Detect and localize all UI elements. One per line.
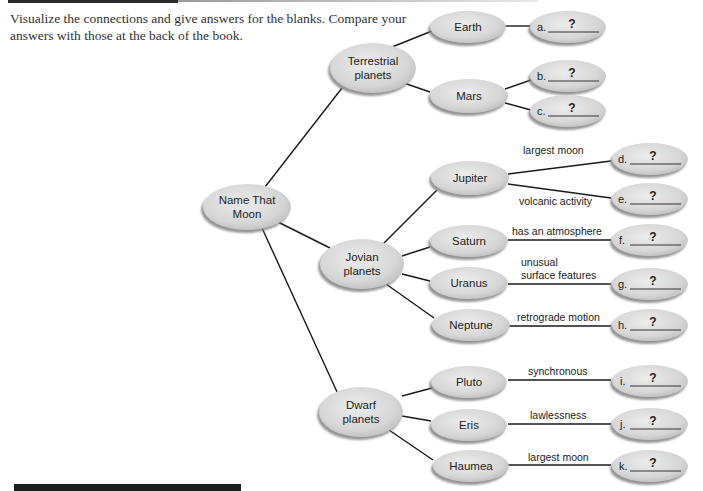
planet-saturn-label: Saturn — [452, 235, 486, 247]
hint-g-line1: unusual — [521, 256, 558, 268]
hint-k: largest moon — [528, 451, 589, 463]
category-node-dwarf — [319, 387, 403, 437]
blank-j-answer[interactable]: ? — [649, 414, 656, 428]
edge-mars-b — [505, 80, 531, 89]
blank-g-answer[interactable]: ? — [649, 274, 656, 288]
edge-mars-c — [505, 103, 531, 110]
category-dwarf-line2: planets — [342, 413, 379, 425]
edge-labels: largest moon volcanic activity has an at… — [512, 144, 602, 463]
hint-f: has an atmosphere — [512, 225, 602, 237]
blank-h-letter: h. — [618, 319, 627, 331]
edge-jovian-jupiter — [383, 190, 437, 244]
blank-i-letter: i. — [620, 375, 626, 387]
blank-d-answer[interactable]: ? — [649, 149, 656, 163]
planet-neptune-label: Neptune — [449, 319, 492, 331]
planet-jupiter-label: Jupiter — [453, 172, 488, 184]
edge-jovian-neptune — [386, 284, 434, 318]
blank-a-letter: a. — [537, 21, 546, 33]
planet-mars-label: Mars — [456, 90, 482, 102]
blank-k-letter: k. — [619, 460, 628, 472]
blank-c-letter: c. — [537, 105, 546, 117]
blank-g-letter: g. — [618, 278, 627, 290]
hint-h: retrograde motion — [517, 311, 600, 323]
edge-jovian-uranus — [402, 274, 430, 281]
category-dwarf-line1: Dwarf — [346, 399, 377, 411]
root-label-line1: Name That — [219, 194, 276, 206]
concept-map: largest moon volcanic activity has an at… — [0, 0, 703, 491]
edge-root-jovian — [278, 222, 330, 248]
category-node-jovian — [320, 239, 404, 289]
edge-dwarf-eris — [402, 416, 431, 421]
blank-k-answer[interactable]: ? — [649, 456, 656, 470]
planet-eris-label: Eris — [459, 419, 479, 431]
edge-jupiter-d — [508, 161, 611, 174]
category-jovian-line2: planets — [343, 265, 380, 277]
blank-f-letter: f. — [619, 234, 625, 246]
planet-nodes: Earth Mars Jupiter Saturn Uranus Neptune… — [430, 11, 510, 482]
planet-haumea-label: Haumea — [449, 460, 493, 472]
hint-i: synchronous — [528, 365, 588, 377]
edge-terrestrial-earth — [392, 31, 432, 47]
category-node-terrestrial — [330, 43, 416, 93]
blank-d-letter: d. — [618, 153, 627, 165]
planet-earth-label: Earth — [454, 21, 482, 33]
blank-b-answer[interactable]: ? — [568, 66, 575, 80]
hint-g-line2: surface features — [521, 269, 596, 281]
hint-d: largest moon — [523, 144, 584, 156]
category-terrestrial-line1: Terrestrial — [348, 55, 398, 67]
blank-a-answer[interactable]: ? — [568, 17, 575, 31]
blank-c-answer[interactable]: ? — [568, 101, 575, 115]
blank-e-letter: e. — [618, 193, 627, 205]
edge-jovian-saturn — [402, 247, 430, 256]
hint-j: lawlessness — [530, 409, 587, 421]
root-label-line2: Moon — [233, 208, 262, 220]
blank-b-letter: b. — [537, 70, 546, 82]
edge-dwarf-haumea — [386, 428, 433, 460]
blank-e-answer[interactable]: ? — [649, 189, 656, 203]
planet-pluto-label: Pluto — [456, 376, 482, 388]
blank-h-answer[interactable]: ? — [649, 315, 656, 329]
blank-i-answer[interactable]: ? — [649, 371, 656, 385]
footer-rule — [14, 484, 241, 491]
edge-dwarf-pluto — [402, 388, 432, 396]
hint-e: volcanic activity — [519, 195, 593, 207]
planet-uranus-label: Uranus — [450, 277, 487, 289]
root-node — [203, 184, 291, 230]
edge-root-terrestrial — [265, 88, 342, 187]
blank-f-answer[interactable]: ? — [649, 230, 656, 244]
blank-j-letter: j. — [619, 418, 626, 430]
category-jovian-line1: Jovian — [345, 251, 378, 263]
category-terrestrial-line2: planets — [354, 69, 391, 81]
